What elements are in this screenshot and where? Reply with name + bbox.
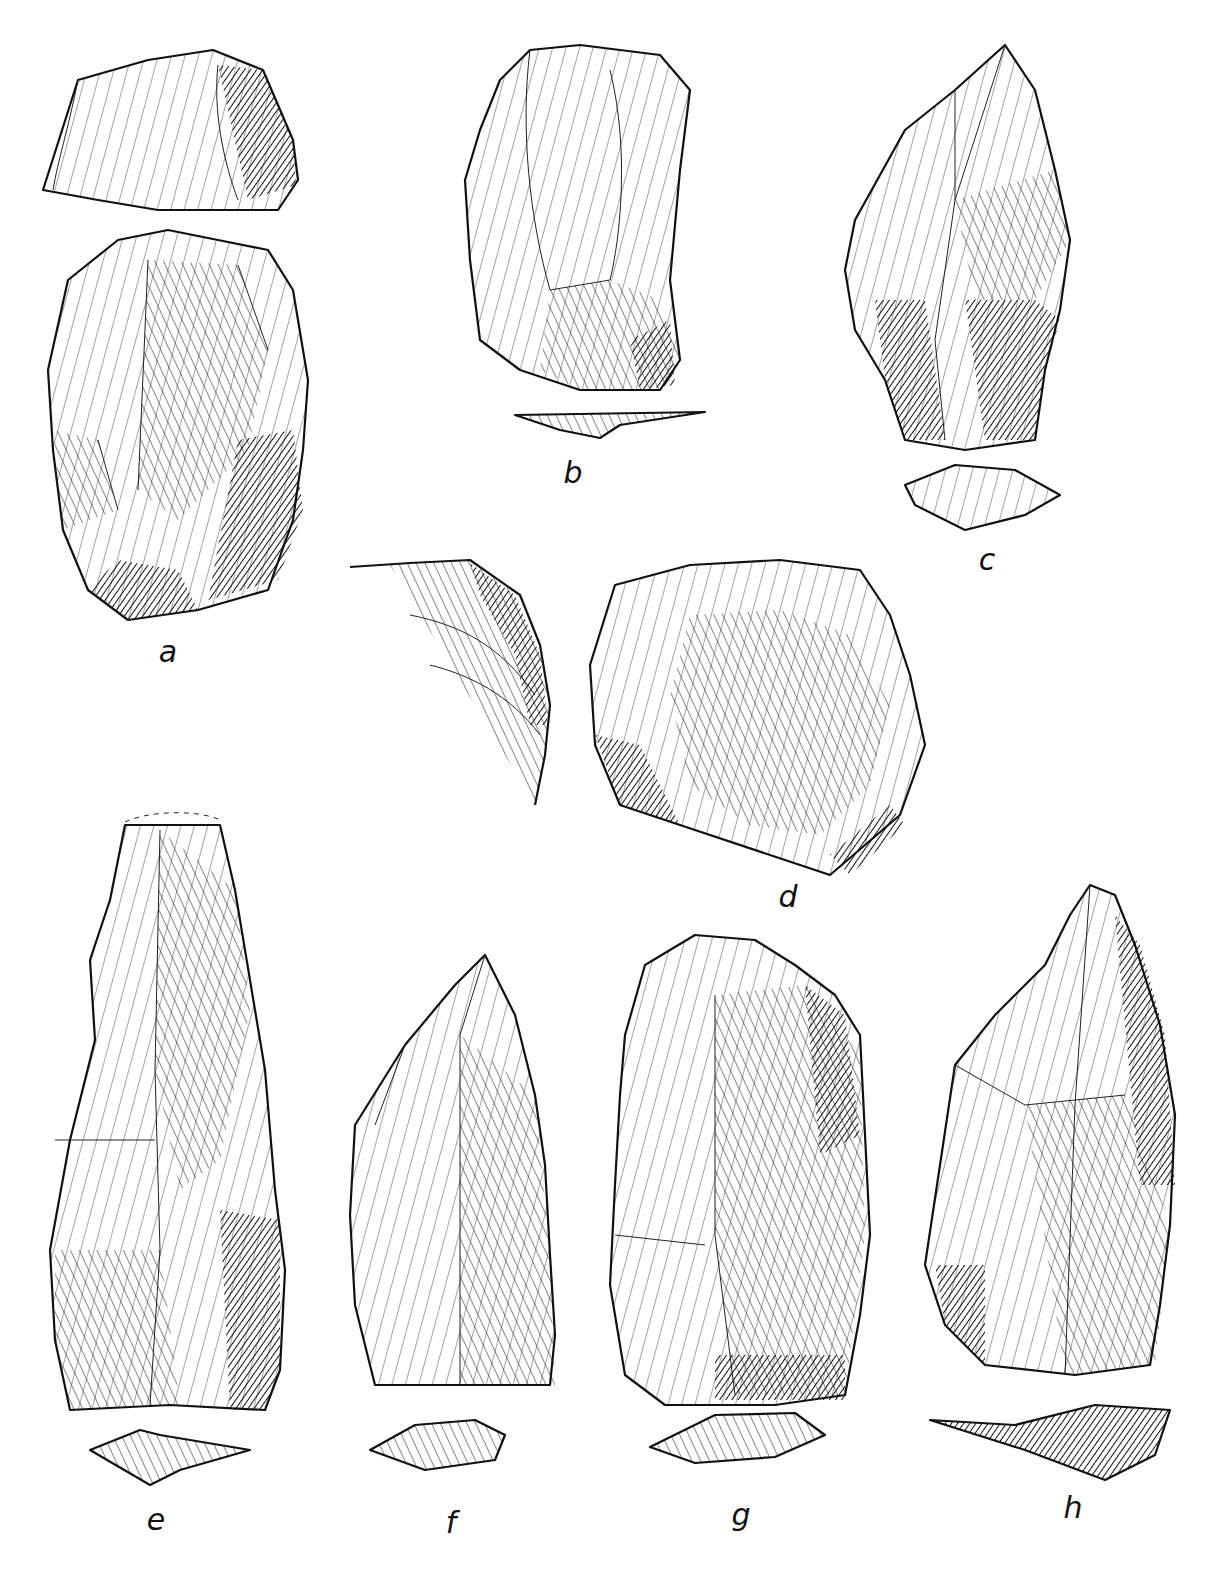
figure-label-c: c — [979, 545, 996, 575]
figure-c — [845, 40, 1080, 550]
figure-h — [925, 885, 1190, 1515]
figure-label-b: b — [563, 458, 582, 488]
figure-d — [350, 555, 950, 885]
artifact-b-drawing — [460, 40, 720, 450]
figure-label-h: h — [1063, 1493, 1082, 1523]
figure-label-g: g — [731, 1500, 750, 1530]
artifact-g-drawing — [605, 935, 875, 1485]
figure-label-a: a — [159, 637, 177, 667]
figure-f — [345, 955, 570, 1475]
artifact-f-drawing — [345, 955, 570, 1475]
figure-label-f: f — [446, 1508, 457, 1538]
artifact-d-drawing — [350, 555, 950, 885]
figure-g — [605, 935, 875, 1485]
figure-b — [460, 40, 720, 450]
figure-label-d: d — [778, 882, 797, 912]
figure-a — [38, 50, 308, 630]
figure-e — [50, 810, 290, 1490]
artifact-e-drawing — [50, 810, 290, 1490]
artifact-a-drawing — [38, 50, 308, 630]
artifact-c-drawing — [845, 40, 1080, 550]
artifact-h-drawing — [925, 885, 1190, 1515]
figure-label-e: e — [147, 1505, 165, 1535]
